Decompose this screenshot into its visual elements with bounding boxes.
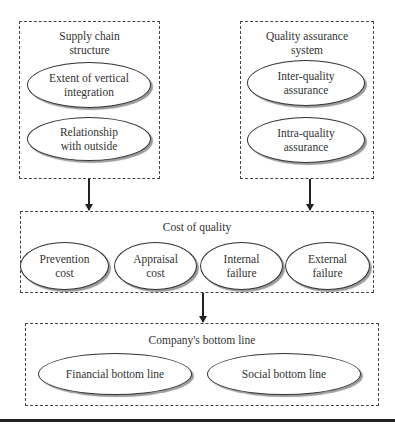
arrow-cost-to-bottom-line [202,293,204,322]
arrow-supply-chain-to-cost [88,179,90,210]
company-bottom-line-title: Company's bottom line [26,333,378,347]
node-prevention-cost: Prevention cost [20,242,109,290]
cost-of-quality-title: Cost of quality [21,220,373,234]
node-vertical-integration: Extent of vertical integration [27,62,151,108]
node-intra-quality-assurance: Intra-quality assurance [247,117,365,163]
bottom-rule-divider [0,419,395,422]
node-internal-failure: Internal failure [200,242,283,290]
node-external-failure: External failure [285,242,370,290]
node-financial-bottom-line: Financial bottom line [38,353,192,395]
node-appraisal-cost: Appraisal cost [114,242,197,290]
node-inter-quality-assurance: Inter-quality assurance [247,60,365,106]
quality-assurance-system-title: Quality assurance system [241,29,373,57]
node-relationship-outside: Relationship with outside [27,117,151,161]
arrow-quality-assurance-to-cost [309,179,311,210]
supply-chain-structure-title: Supply chain structure [20,29,159,57]
node-social-bottom-line: Social bottom line [207,353,361,395]
